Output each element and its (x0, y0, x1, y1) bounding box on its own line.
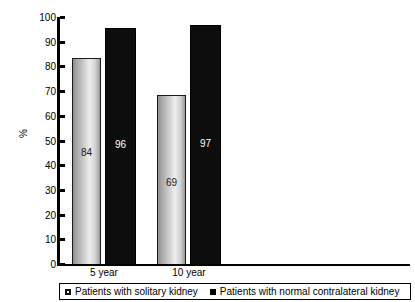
x-axis-line (57, 264, 410, 266)
legend-swatch-solitary-icon (65, 289, 71, 295)
legend-label-contralateral: Patients with normal contralateral kidne… (220, 286, 400, 297)
y-tick-mark (60, 140, 65, 143)
y-tick-mark (60, 65, 65, 68)
legend-label-solitary: Patients with solitary kidney (75, 286, 198, 297)
y-tick-mark (60, 238, 65, 241)
y-tick-label: 80 (45, 61, 56, 73)
bar-value-label: 84 (73, 147, 100, 158)
y-tick-50: 50 (20, 136, 65, 148)
y-tick-label: 10 (45, 234, 56, 246)
y-tick-60: 60 (20, 111, 65, 123)
y-tick-mark (60, 164, 65, 167)
y-tick-30: 30 (20, 185, 65, 197)
y-tick-label: 0 (50, 259, 56, 271)
bar-10year-solitary: 69 (157, 95, 186, 265)
bar-value-label: 97 (191, 138, 220, 149)
x-axis-category-10-year: 10 year (159, 267, 219, 278)
y-tick-100: 100 (20, 12, 65, 24)
legend-entry-solitary: Patients with solitary kidney (65, 286, 198, 297)
bar-value-label: 69 (158, 177, 185, 188)
y-tick-label: 20 (45, 210, 56, 222)
bar-5year-contralateral: 96 (105, 28, 136, 265)
y-tick-label: 70 (45, 86, 56, 98)
legend: Patients with solitary kidney Patients w… (59, 283, 411, 300)
bar-chart: % 100 90 80 70 60 50 40 30 20 10 (0, 0, 415, 302)
bar-5year-solitary: 84 (72, 58, 101, 266)
y-tick-mark (60, 41, 65, 44)
legend-swatch-contralateral-icon (210, 289, 216, 295)
y-tick-mark (60, 189, 65, 192)
x-axis-category-5-year: 5 year (74, 267, 134, 278)
y-tick-10: 10 (20, 234, 65, 246)
bar-10year-contralateral: 97 (190, 25, 221, 265)
y-tick-80: 80 (20, 61, 65, 73)
y-tick-40: 40 (20, 160, 65, 172)
y-tick-70: 70 (20, 86, 65, 98)
y-tick-label: 90 (45, 37, 56, 49)
y-tick-label: 100 (39, 12, 56, 24)
y-tick-mark (60, 90, 65, 93)
y-tick-mark (60, 115, 65, 118)
y-tick-20: 20 (20, 210, 65, 222)
y-tick-label: 50 (45, 136, 56, 148)
y-tick-mark (60, 16, 65, 19)
y-tick-90: 90 (20, 37, 65, 49)
bar-value-label: 96 (106, 139, 135, 150)
y-tick-label: 60 (45, 111, 56, 123)
legend-entry-contralateral: Patients with normal contralateral kidne… (210, 286, 400, 297)
y-tick-mark (60, 214, 65, 217)
y-tick-label: 30 (45, 185, 56, 197)
y-tick-label: 40 (45, 160, 56, 172)
